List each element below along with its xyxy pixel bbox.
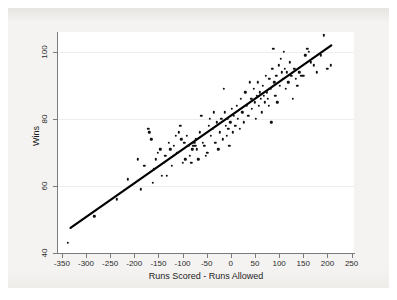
x-tick-label--50: -50 — [201, 259, 213, 268]
y-tick-60 — [53, 186, 57, 187]
x-tick-50 — [255, 254, 256, 258]
regression-line — [57, 32, 354, 253]
x-tick--300 — [86, 254, 87, 258]
plot-area — [57, 32, 354, 253]
x-tick-label-50: 50 — [251, 259, 260, 268]
x-tick-label--100: -100 — [175, 259, 191, 268]
x-tick--200 — [134, 254, 135, 258]
y-axis-title: Wins — [31, 106, 41, 166]
y-tick-80 — [53, 119, 57, 120]
x-tick--150 — [158, 254, 159, 258]
x-tick--250 — [110, 254, 111, 258]
x-tick-100 — [279, 254, 280, 258]
y-tick-40 — [53, 253, 57, 254]
y-tick-label-60: 60 — [40, 177, 49, 195]
x-tick--350 — [62, 254, 63, 258]
figure-canvas: -350-300-250-200-150-100-500501001502002… — [8, 8, 389, 288]
x-tick--50 — [207, 254, 208, 258]
x-tick-label-250: 250 — [345, 259, 358, 268]
x-tick-label--250: -250 — [102, 259, 118, 268]
y-axis-line — [57, 32, 58, 254]
x-tick-label--150: -150 — [150, 259, 166, 268]
x-tick--100 — [183, 254, 184, 258]
screenshot-root: -350-300-250-200-150-100-500501001502002… — [0, 0, 397, 300]
x-tick-label-150: 150 — [297, 259, 310, 268]
x-axis-title: Runs Scored - Runs Allowed — [57, 271, 355, 281]
x-tick-label--300: -300 — [78, 259, 94, 268]
x-tick-label--200: -200 — [126, 259, 142, 268]
y-tick-100 — [53, 52, 57, 53]
x-tick-label--350: -350 — [54, 259, 70, 268]
x-tick-200 — [327, 254, 328, 258]
x-tick-250 — [352, 254, 353, 258]
y-tick-label-40: 40 — [40, 244, 49, 262]
x-tick-150 — [303, 254, 304, 258]
y-tick-label-100: 100 — [40, 43, 49, 61]
x-tick-0 — [231, 254, 232, 258]
x-tick-label-100: 100 — [272, 259, 285, 268]
x-tick-label-0: 0 — [229, 259, 233, 268]
x-tick-label-200: 200 — [321, 259, 334, 268]
